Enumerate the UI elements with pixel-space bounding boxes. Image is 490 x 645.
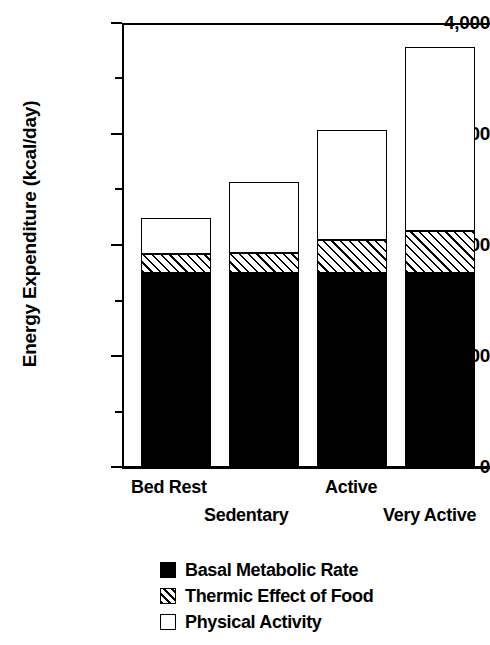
white-swatch-icon: [160, 614, 176, 630]
y-tick-major-0: [111, 466, 122, 468]
segment-physical-activity: [405, 47, 475, 231]
y-tick-minor-500: [115, 411, 122, 413]
energy-expenditure-chart: Energy Expenditure (kcal/day) 4,000 3,00…: [0, 0, 490, 645]
legend-label: Basal Metabolic Rate: [185, 560, 358, 581]
x-tick-label-bed-rest: Bed Rest: [131, 477, 207, 498]
plot-area: [122, 23, 490, 468]
legend-item-basal-metabolic-rate: Basal Metabolic Rate: [160, 558, 373, 582]
x-tick-label-active: Active: [325, 477, 377, 498]
y-tick-major-3000: [111, 133, 122, 135]
segment-basal-metabolic-rate: [405, 273, 475, 468]
legend-item-thermic-effect-of-food: Thermic Effect of Food: [160, 584, 373, 608]
segment-thermic-effect-food: [317, 240, 387, 273]
x-tick-label-very-active: Very Active: [383, 505, 476, 526]
solid-black-swatch-icon: [160, 562, 176, 578]
segment-physical-activity: [141, 218, 211, 255]
y-tick-major-1000: [111, 355, 122, 357]
segment-basal-metabolic-rate: [317, 273, 387, 468]
segment-basal-metabolic-rate: [141, 273, 211, 468]
legend-item-physical-activity: Physical Activity: [160, 610, 373, 634]
segment-physical-activity: [317, 130, 387, 240]
segment-thermic-effect-food: [229, 253, 299, 273]
y-tick-minor-1500: [115, 300, 122, 302]
y-tick-major-4000: [111, 22, 122, 24]
segment-thermic-effect-food: [141, 254, 211, 273]
segment-physical-activity: [229, 182, 299, 253]
legend: Basal Metabolic Rate Thermic Effect of F…: [160, 558, 373, 636]
segment-thermic-effect-food: [405, 231, 475, 273]
legend-label: Physical Activity: [185, 612, 321, 633]
x-axis-baseline: [122, 466, 490, 469]
x-tick-label-sedentary: Sedentary: [204, 505, 288, 526]
y-tick-minor-2500: [115, 188, 122, 190]
hatched-swatch-icon: [160, 588, 176, 604]
y-axis-title: Energy Expenditure (kcal/day): [15, 54, 45, 414]
legend-label: Thermic Effect of Food: [185, 586, 373, 607]
y-tick-major-2000: [111, 244, 122, 246]
segment-basal-metabolic-rate: [229, 273, 299, 468]
y-tick-minor-3500: [115, 77, 122, 79]
